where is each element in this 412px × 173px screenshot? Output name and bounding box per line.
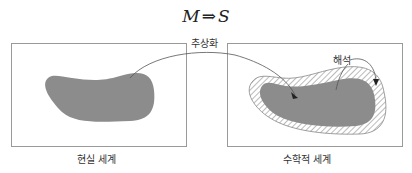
real-world-label: 현실 세계 — [77, 151, 116, 166]
math-world-label: 수학적 세계 — [283, 151, 331, 166]
interpretation-label: 해석 — [333, 52, 351, 67]
real-world-blob — [45, 73, 154, 122]
diagram-canvas — [0, 0, 412, 173]
abstraction-label: 추상화 — [191, 35, 218, 50]
